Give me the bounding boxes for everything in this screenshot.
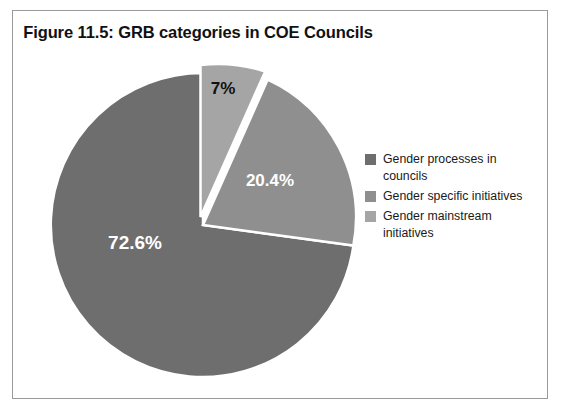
legend: Gender processes in councils Gender spec… bbox=[365, 151, 555, 245]
legend-label-line1: Gender mainstream bbox=[383, 209, 492, 223]
legend-label-line2: councils bbox=[383, 169, 427, 183]
legend-swatch-icon bbox=[365, 211, 376, 222]
pie-chart: 72.6% 20.4% 7% bbox=[27, 49, 367, 389]
legend-label-line1: Gender processes in bbox=[383, 152, 496, 166]
legend-swatch-icon bbox=[365, 191, 376, 202]
legend-item-label: Gender mainstream initiatives bbox=[383, 208, 492, 242]
chart-frame: Figure 11.5: GRB categories in COE Counc… bbox=[12, 10, 548, 399]
legend-label-line2: initiatives bbox=[383, 226, 434, 240]
legend-item-label: Gender processes in councils bbox=[383, 151, 496, 185]
legend-label-line1: Gender specific initiatives bbox=[383, 189, 522, 203]
chart-title: Figure 11.5: GRB categories in COE Counc… bbox=[13, 23, 383, 42]
legend-item-gender-specific[interactable]: Gender specific initiatives bbox=[365, 188, 555, 205]
legend-item-label: Gender specific initiatives bbox=[383, 188, 522, 205]
legend-swatch-icon bbox=[365, 154, 376, 165]
legend-item-gender-processes[interactable]: Gender processes in councils bbox=[365, 151, 555, 185]
pie-chart-svg: 72.6% 20.4% 7% bbox=[27, 49, 367, 389]
legend-item-gender-mainstream[interactable]: Gender mainstream initiatives bbox=[365, 208, 555, 242]
